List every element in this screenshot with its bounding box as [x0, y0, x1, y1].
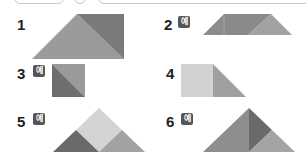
- shape-trapezoid: [201, 11, 294, 37]
- example-badge: 예: [33, 113, 45, 125]
- top-box-3: [98, 0, 306, 4]
- shape-triangle: [52, 106, 146, 154]
- problem-number: 4: [166, 66, 174, 81]
- shape-square-triangle: [180, 63, 248, 99]
- problem-number: 1: [17, 17, 25, 32]
- problem-number: 3: [17, 66, 25, 81]
- example-badge: 예: [33, 65, 45, 77]
- example-badge: 예: [181, 113, 193, 125]
- shape-trapezoid: [30, 11, 126, 61]
- example-badge: 예: [178, 16, 190, 28]
- top-box-1: [14, 0, 64, 4]
- top-box-2: [74, 0, 86, 4]
- problem-number: 6: [166, 114, 174, 129]
- problem-number: 2: [164, 17, 172, 32]
- shape-triangle: [202, 106, 296, 154]
- shape-square: [51, 63, 87, 99]
- problem-number: 5: [17, 114, 25, 129]
